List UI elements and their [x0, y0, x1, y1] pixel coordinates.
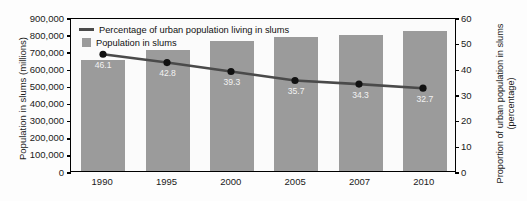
x-tick-2007: 2007	[330, 176, 390, 188]
x-tick-2000: 2000	[201, 176, 261, 188]
y-tick-right-40: 40	[461, 64, 491, 75]
tickmark-right	[455, 70, 459, 72]
value-label-2010: 32.7	[403, 94, 447, 104]
tickmark-right	[455, 44, 459, 46]
y-tick-right-10: 10	[461, 141, 491, 152]
legend-line-swatch-icon	[79, 28, 94, 31]
tickmark-left	[67, 172, 71, 174]
tickmark-right	[455, 172, 459, 174]
value-label-2000: 39.3	[210, 77, 254, 87]
y-axis-title-right: Proportion of urban population in slums …	[495, 24, 516, 184]
y-tick-left-200000: 200,000	[2, 132, 64, 143]
y-axis-right-ticks: 0102030405060	[461, 0, 493, 201]
y-axis-left-ticks: 0100,000200,000300,000400,000500,000600,…	[0, 0, 64, 201]
y-tick-left-800000: 800,000	[2, 30, 64, 41]
y-tick-left-0: 0	[2, 167, 64, 178]
tickmark-right	[455, 95, 459, 97]
data-point-2010	[419, 85, 426, 92]
x-tick-2010: 2010	[394, 176, 454, 188]
y-tick-left-700000: 700,000	[2, 47, 64, 58]
value-label-1990: 46.1	[81, 60, 125, 70]
data-point-2000	[227, 68, 234, 75]
x-tick-2005: 2005	[265, 176, 325, 188]
y-tick-left-500000: 500,000	[2, 81, 64, 92]
y-tick-right-20: 20	[461, 115, 491, 126]
y-tick-left-300000: 300,000	[2, 115, 64, 126]
legend-bar-swatch-icon	[82, 38, 91, 47]
value-label-2005: 35.7	[274, 86, 318, 96]
data-point-2005	[291, 77, 298, 84]
tickmark-right	[455, 18, 459, 20]
chart-legend: Percentage of urban population living in…	[79, 23, 289, 49]
legend-item-bar: Population in slums	[79, 36, 289, 49]
y-tick-right-0: 0	[461, 167, 491, 178]
tickmark-right	[455, 147, 459, 149]
plot-area: 46.142.839.335.734.332.7 Percentage of u…	[70, 18, 456, 172]
y-tick-left-600000: 600,000	[2, 64, 64, 75]
y-tick-left-400000: 400,000	[2, 98, 64, 109]
y-tick-left-900000: 900,000	[2, 13, 64, 24]
data-point-1995	[163, 59, 170, 66]
legend-item-line-label: Percentage of urban population living in…	[99, 25, 289, 35]
tickmark-right	[455, 121, 459, 123]
value-label-1995: 42.8	[146, 68, 190, 78]
y-tick-left-100000: 100,000	[2, 149, 64, 160]
y-tick-right-30: 30	[461, 90, 491, 101]
x-tick-1995: 1995	[137, 176, 197, 188]
y-tick-right-60: 60	[461, 13, 491, 24]
value-label-2007: 34.3	[339, 90, 383, 100]
slums-chart: Population in slums (millions) Proportio…	[0, 0, 527, 201]
legend-item-bar-label: Population in slums	[96, 38, 177, 48]
data-point-1990	[99, 51, 106, 58]
y-tick-right-50: 50	[461, 38, 491, 49]
data-point-2007	[355, 81, 362, 88]
x-axis-ticks: 199019952000200520072010	[70, 176, 456, 192]
legend-item-line: Percentage of urban population living in…	[79, 23, 289, 36]
x-tick-1990: 1990	[72, 176, 132, 188]
